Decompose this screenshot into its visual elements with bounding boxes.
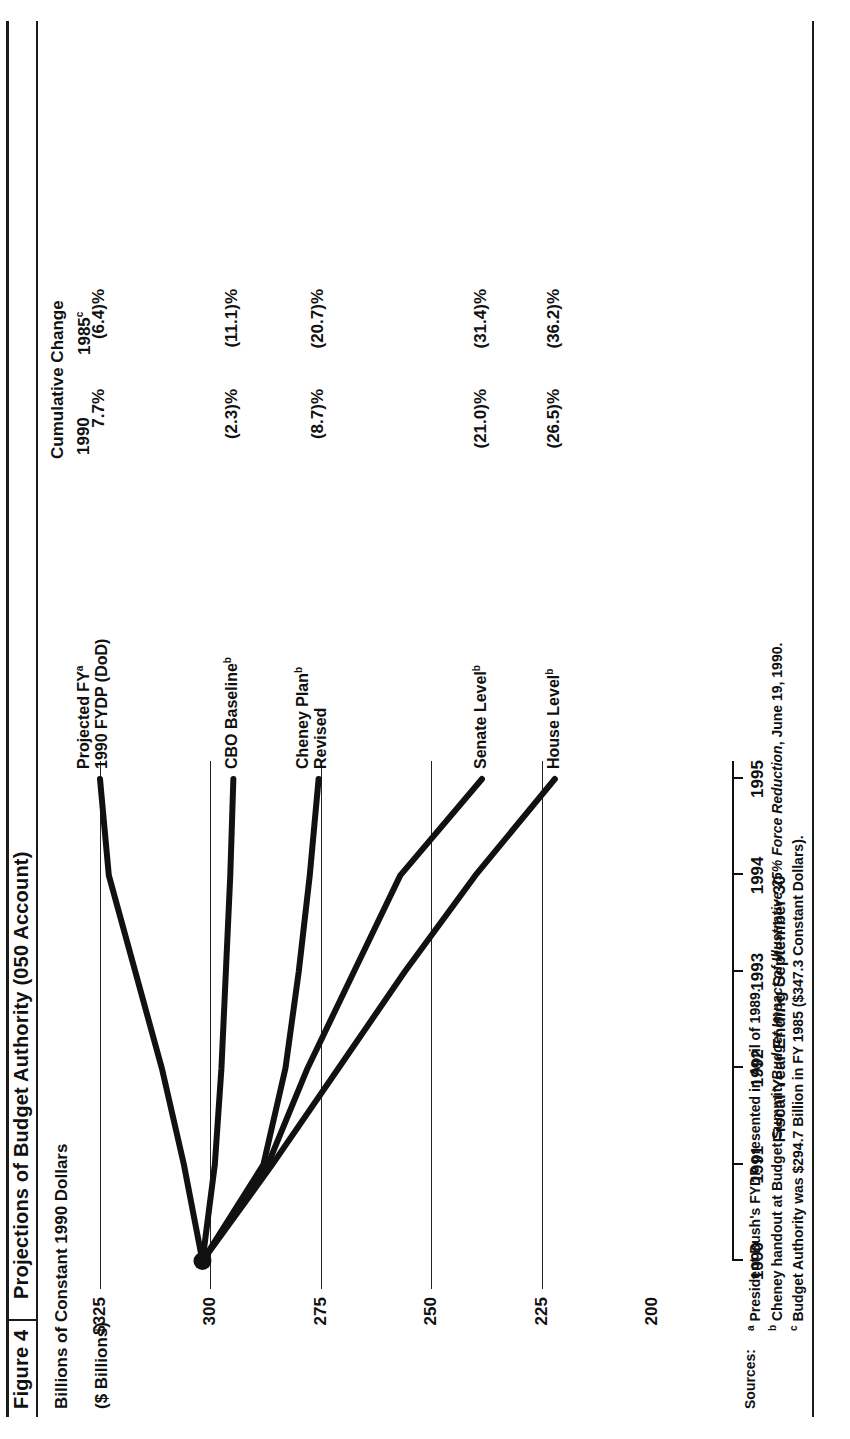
series-line — [202, 779, 318, 1261]
y-tick-label: 250 — [421, 1297, 441, 1355]
series-line — [202, 779, 482, 1261]
y-tick-label: 200 — [642, 1297, 662, 1355]
convergence-marker — [193, 1252, 211, 1270]
table-cell-change-1990: (26.5)% — [544, 389, 564, 475]
series-label: House Levelb — [544, 669, 563, 769]
series-label: Senate Levelb — [471, 665, 490, 769]
series-label: Projected FYa1990 FYDP (DoD) — [74, 639, 111, 769]
page-top-rule — [6, 21, 9, 1417]
series-line — [202, 779, 554, 1261]
source-note: b Cheney handout at Budget Summit, Budge… — [764, 643, 786, 1331]
document-page: Figure 4 Projections of Budget Authority… — [0, 0, 850, 1439]
series-label: CBO Baselineb — [222, 657, 241, 769]
table-cell-change-1985: (6.4)% — [89, 289, 109, 375]
series-label: Cheney PlanbRevised — [293, 667, 330, 769]
scanned-page-canvas: Figure 4 Projections of Budget Authority… — [0, 0, 850, 1439]
table-cell-change-1985: (20.7)% — [308, 289, 328, 375]
sources-notes: a President Bush's FYDP presented in Apr… — [742, 643, 807, 1331]
chart-plot-area: $325300275250225200 19901991199219931994… — [92, 729, 732, 1289]
source-note: a President Bush's FYDP presented in Apr… — [742, 643, 764, 1331]
table-cell-change-1990: (8.7)% — [308, 389, 328, 475]
table-cell-change-1990: (21.0)% — [471, 389, 491, 475]
table-cell-change-1985: (31.4)% — [471, 289, 491, 375]
page-bottom-rule — [812, 21, 814, 1417]
table-cell-change-1990: 7.7% — [89, 389, 109, 475]
series-line — [100, 779, 202, 1261]
series-line — [202, 779, 233, 1261]
title-divider — [8, 1319, 36, 1321]
y-tick-label: $325 — [90, 1297, 110, 1355]
title-rule — [36, 21, 38, 1417]
y-tick-label: 300 — [200, 1297, 220, 1355]
table-header-title: Cumulative Change — [48, 300, 68, 459]
source-note: c Budget Authority was $294.7 Billion in… — [785, 643, 807, 1331]
y-tick-label: 225 — [532, 1297, 552, 1355]
sources-label: Sources: — [742, 1349, 758, 1409]
table-cell-change-1985: (36.2)% — [544, 289, 564, 375]
table-cell-change-1990: (2.3)% — [222, 389, 242, 475]
figure-label: Figure 4 — [10, 1330, 33, 1409]
series-lines — [92, 729, 752, 1289]
table-cell-change-1985: (11.1)% — [222, 289, 242, 375]
y-tick-label: 275 — [311, 1297, 331, 1355]
figure-subtitle: Billions of Constant 1990 Dollars — [52, 1144, 72, 1409]
figure-title: Projections of Budget Authority (050 Acc… — [10, 851, 33, 1299]
